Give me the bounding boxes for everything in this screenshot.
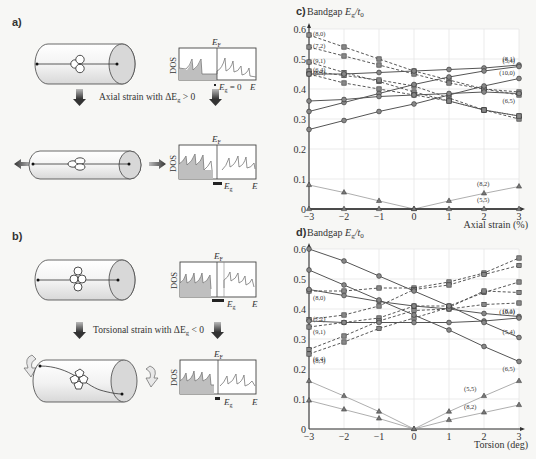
- data-point: [482, 311, 487, 316]
- x-tick-label: −2: [339, 431, 350, 442]
- x-axis-title: Axial strain (%): [464, 219, 528, 231]
- data-point: [482, 90, 487, 95]
- data-point: [342, 320, 347, 325]
- data-point: [377, 63, 381, 67]
- data-point: [447, 81, 451, 85]
- data-point: [447, 75, 452, 80]
- bandgap-label: Eg: [226, 299, 236, 310]
- data-point: [342, 72, 347, 77]
- data-point: [482, 302, 486, 306]
- data-point: [412, 304, 417, 309]
- x-tick-label: 1: [447, 431, 452, 442]
- y-tick-label: 0.1: [294, 174, 307, 185]
- data-point: [377, 70, 382, 75]
- down-arrow-icon: [76, 322, 83, 332]
- fermi-level-label: EF: [213, 349, 224, 360]
- data-point: [377, 57, 381, 61]
- data-point: [342, 293, 347, 298]
- series-label: (6,5): [503, 365, 515, 373]
- data-point: [517, 76, 522, 81]
- fermi-level-label: EF: [213, 251, 224, 262]
- data-point: [307, 347, 311, 351]
- data-point: [377, 87, 381, 91]
- data-point: [377, 320, 382, 325]
- data-point: [307, 352, 311, 356]
- y-tick-label: 0.3: [294, 334, 307, 345]
- bandgap-label: Eg = 0: [218, 82, 242, 93]
- data-point: [307, 109, 312, 114]
- x-tick-label: −2: [339, 211, 350, 222]
- energy-axis-label: E: [249, 82, 256, 92]
- data-point: [307, 45, 311, 49]
- data-point: [482, 344, 487, 349]
- dos-plot-a-bottom: EF DOS Eg E: [168, 134, 258, 192]
- series-label: (8,2): [464, 403, 476, 411]
- energy-axis-label: E: [251, 397, 258, 407]
- y-tick-label: 0.5: [294, 274, 307, 285]
- data-point: [377, 286, 381, 290]
- data-point: [307, 99, 312, 104]
- panel-a-label: a): [12, 16, 22, 28]
- data-point: [517, 359, 522, 364]
- down-arrow-icon: [212, 89, 219, 99]
- data-point: [342, 54, 346, 58]
- y-tick-label: 0.5: [294, 54, 307, 65]
- x-tick-label: 0: [412, 211, 417, 222]
- down-arrow-icon: [76, 89, 83, 99]
- panel-a: a) Axial strain with ΔEg > 0: [12, 16, 258, 192]
- data-point: [517, 114, 521, 118]
- data-point: [482, 69, 487, 74]
- fermi-level-label: EF: [211, 134, 222, 145]
- y-tick-label: 0.2: [294, 144, 307, 155]
- series-label: (6,5): [503, 97, 515, 105]
- y-tick-label: 0.2: [294, 364, 307, 375]
- series-label: (8,3): [313, 69, 325, 77]
- data-point: [342, 340, 346, 344]
- data-point: [517, 290, 521, 294]
- data-point: [377, 94, 382, 99]
- bandgap-bar: [215, 397, 220, 400]
- nanotube-stretched: [14, 151, 166, 179]
- energy-axis-label: E: [251, 181, 258, 191]
- data-point: [482, 320, 487, 325]
- x-tick-label: −3: [304, 431, 315, 442]
- data-point: [447, 91, 452, 96]
- nanotube-relaxed: [35, 44, 135, 84]
- data-point: [412, 320, 417, 325]
- y-tick-label: 0.3: [294, 114, 307, 125]
- data-point: [307, 72, 312, 77]
- data-point: [377, 298, 382, 303]
- panel-label: d): [296, 226, 307, 238]
- y-tick-label: 0.6: [294, 244, 307, 255]
- data-point: [377, 326, 381, 330]
- data-point: [517, 280, 521, 284]
- dos-axis-label: DOS: [168, 155, 178, 172]
- data-point: [377, 109, 382, 114]
- figure: a) Axial strain with ΔEg > 0: [0, 0, 536, 459]
- data-point: [377, 274, 382, 279]
- panel-label: c): [296, 5, 306, 17]
- data-point: [342, 259, 347, 264]
- data-point: [412, 69, 417, 74]
- x-tick-label: −3: [304, 211, 315, 222]
- series-label: (5,5): [464, 385, 476, 393]
- panel-b: b) Torsional strain with ΔEg < 0 EF DOS …: [12, 230, 258, 408]
- y-tick-label: 0.1: [294, 394, 307, 405]
- data-point: [517, 91, 522, 96]
- y-axis-title: Bandgap Eg/t0: [307, 227, 364, 240]
- data-point: [482, 289, 486, 293]
- x-axis-title: Torsion (deg): [474, 439, 528, 451]
- data-point: [482, 84, 487, 89]
- data-point: [447, 99, 451, 103]
- data-point: [377, 78, 381, 82]
- data-point: [412, 93, 417, 98]
- series-label: (9,1): [313, 57, 325, 65]
- data-point: [482, 108, 486, 112]
- series-label: (5,4): [503, 57, 515, 65]
- data-point: [307, 127, 312, 132]
- dos-plot-b-bottom: EF DOS Eg E: [169, 349, 258, 408]
- data-point: [517, 263, 521, 267]
- chart-torsion: 00.10.20.30.40.50.6−3−2−10123d)Bandgap E…: [294, 226, 529, 451]
- series-label: (8,2): [477, 180, 489, 188]
- data-point: [412, 289, 417, 294]
